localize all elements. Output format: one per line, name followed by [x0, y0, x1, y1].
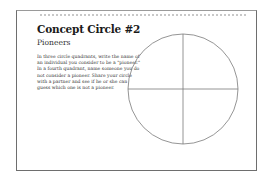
concept-circle	[127, 31, 241, 149]
worksheet-subtitle: Pioneers	[37, 38, 71, 47]
worksheet-page: Concept Circle #2 Pioneers In three circ…	[16, 10, 257, 171]
worksheet-title: Concept Circle #2	[37, 23, 140, 35]
instructions-text: In three circle quadrants, write the nam…	[37, 54, 141, 91]
dotted-divider	[39, 14, 247, 16]
